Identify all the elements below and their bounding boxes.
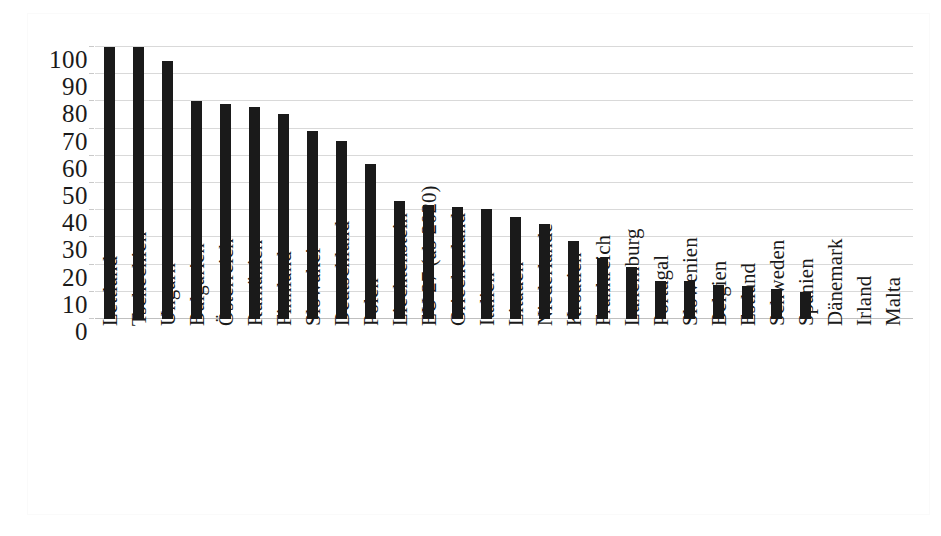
x-axis-label: Österreich <box>215 239 236 326</box>
x-axis-label-slot: EU 27 (ab 2020) <box>414 322 443 522</box>
x-axis-label-slot: Lettland <box>95 322 124 522</box>
y-axis: 0102030405060708090100 <box>30 47 88 319</box>
x-axis-label: Bulgarien <box>186 243 207 326</box>
x-axis-label-slot: Estland <box>733 322 762 522</box>
x-axis-label: Dänemark <box>824 239 845 326</box>
y-tick-70 <box>89 128 94 129</box>
x-axis-label: Polen <box>360 278 381 326</box>
x-axis-label-slot: Griechenland <box>443 322 472 522</box>
x-axis-label-slot: Finnland <box>269 322 298 522</box>
x-axis-label-slot: Niederlande <box>530 322 559 522</box>
x-axis-label-slot: Slowenien <box>675 322 704 522</box>
x-axis-label: Kroatien <box>563 253 584 326</box>
y-tick-10 <box>89 291 94 292</box>
x-axis-label: Litauen <box>505 262 526 326</box>
x-axis-label-slot: Portugal <box>646 322 675 522</box>
x-axis-label-slot: Litauen <box>501 322 530 522</box>
x-axis-label: Finnland <box>273 251 294 326</box>
x-axis-label-slot: Frankreich <box>588 322 617 522</box>
y-tick-50 <box>89 182 94 183</box>
y-tick-20 <box>89 264 94 265</box>
x-axis-label: Slowakei <box>302 248 323 326</box>
x-axis-label: Spanien <box>795 258 816 326</box>
x-axis-label-slot: Irland <box>849 322 878 522</box>
x-axis-label: Frankreich <box>592 235 613 326</box>
y-tick-30 <box>89 236 94 237</box>
x-axis-label: Niederlande <box>534 223 555 326</box>
x-axis-label: Griechenland <box>447 213 468 326</box>
x-axis-label: Liechtenstein <box>389 213 410 326</box>
x-axis-label: Luxemburg <box>621 228 642 326</box>
x-axis-label-slot: Luxemburg <box>617 322 646 522</box>
x-axis-label: Malta <box>882 277 903 326</box>
x-axis-label-slot: Kroatien <box>559 322 588 522</box>
x-axis-label: Rumänien <box>244 240 265 326</box>
x-axis-label-slot: Polen <box>356 322 385 522</box>
y-tick-60 <box>89 155 94 156</box>
x-axis-label: Tschechien <box>128 232 149 326</box>
x-axis-label-slot: Schweden <box>762 322 791 522</box>
x-axis-label-slot: Liechtenstein <box>385 322 414 522</box>
x-axis-label-slot: Malta <box>878 322 907 522</box>
y-tick-100 <box>89 46 94 47</box>
x-axis-label-slot: Italien <box>472 322 501 522</box>
x-axis-label-slot: Bulgarien <box>182 322 211 522</box>
x-axis-label: Irland <box>853 276 874 326</box>
y-tick-0 <box>89 318 94 319</box>
x-axis-label: Slowenien <box>679 237 700 326</box>
x-axis-label-slot: Tschechien <box>124 322 153 522</box>
x-axis: LettlandTschechienUngarnBulgarienÖsterre… <box>95 322 913 522</box>
x-axis-label: Portugal <box>650 255 671 326</box>
x-axis-label-slot: Slowakei <box>298 322 327 522</box>
x-axis-label-slot: Spanien <box>791 322 820 522</box>
y-tick-90 <box>89 73 94 74</box>
x-axis-label-slot: Ungarn <box>153 322 182 522</box>
x-axis-label: Schweden <box>766 240 787 326</box>
x-axis-label-slot: Belgien <box>704 322 733 522</box>
x-axis-label: Belgien <box>708 261 729 326</box>
x-axis-label: Estland <box>737 263 758 326</box>
x-axis-label: Lettland <box>99 256 120 326</box>
x-axis-label: EU 27 (ab 2020) <box>418 185 439 326</box>
x-axis-label-slot: Rumänien <box>240 322 269 522</box>
x-axis-label: Deutschland <box>331 221 352 326</box>
x-axis-label: Ungarn <box>157 263 178 326</box>
x-axis-label-slot: Deutschland <box>327 322 356 522</box>
x-axis-label-slot: Österreich <box>211 322 240 522</box>
x-axis-label-slot: Dänemark <box>820 322 849 522</box>
y-tick-80 <box>89 100 94 101</box>
bar-chart-figure: 0102030405060708090100 LettlandTschechie… <box>0 0 941 536</box>
x-axis-label: Italien <box>476 272 497 326</box>
y-tick-40 <box>89 209 94 210</box>
